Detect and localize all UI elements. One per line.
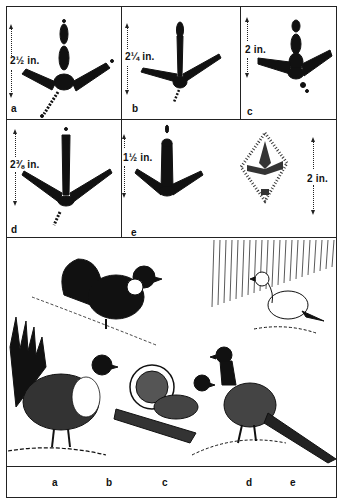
snow-track-icon xyxy=(227,119,317,237)
bird-label-e: e xyxy=(290,477,296,488)
bird-label-b: b xyxy=(106,477,112,488)
track-panel-b: 2¼ in. b xyxy=(121,6,240,119)
footprint-c-icon xyxy=(240,6,337,119)
footprint-a-icon xyxy=(6,6,121,119)
footprint-b-icon xyxy=(121,6,240,119)
track-panel-c: 2 in. c xyxy=(240,6,337,119)
birds-panel xyxy=(6,237,337,466)
footprint-d-icon xyxy=(6,119,121,237)
bird-dusky-grouse xyxy=(32,259,162,345)
bird-ptarmigan xyxy=(250,272,324,333)
birds-illustration xyxy=(6,237,337,466)
bird-labels-row: a b c d e xyxy=(6,466,337,498)
bird-sage-grouse xyxy=(8,317,118,455)
bird-label-a: a xyxy=(52,477,58,488)
bird-pheasant xyxy=(192,347,336,463)
track-panel-e: 1½ in. e 2 in. xyxy=(121,119,337,237)
track-panel-d: 2⅜ in. d xyxy=(6,119,121,237)
footprint-e-icon xyxy=(121,119,241,237)
bird-label-d: d xyxy=(246,477,252,488)
bird-label-c: c xyxy=(162,477,168,488)
measure-arrow xyxy=(313,141,314,169)
track-measurement: 2 in. xyxy=(307,173,328,184)
measure-arrow xyxy=(313,185,314,211)
bird-ruffed-grouse xyxy=(114,365,215,443)
track-panel-a: 2½ in. a xyxy=(6,6,121,119)
